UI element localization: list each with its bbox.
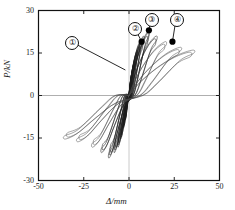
annotation-number-2: ② — [128, 22, 142, 36]
x-tick-label: 25 — [159, 182, 189, 191]
annotation-dot — [169, 39, 175, 45]
y-tick-label: 15 — [8, 48, 34, 57]
y-axis-label: P/kN — [2, 60, 12, 78]
x-tick-label: 50 — [205, 182, 235, 191]
y-tick-label: -30 — [8, 176, 34, 185]
plot-canvas — [0, 0, 235, 210]
y-tick-label: 30 — [8, 6, 34, 15]
y-tick-label: -15 — [8, 133, 34, 142]
x-tick-label: -25 — [69, 182, 99, 191]
annotation-number-3: ③ — [145, 13, 159, 27]
annotation-number-4: ④ — [170, 13, 184, 27]
y-tick-label: 0 — [8, 91, 34, 100]
annotation-number-1: ① — [65, 36, 79, 50]
annotation-dot — [146, 27, 152, 33]
x-tick-label: 0 — [114, 182, 144, 191]
x-axis-label: Δ/mm — [106, 196, 127, 206]
annotation-dot — [139, 39, 145, 45]
hysteresis-chart: P/kN Δ/mm -50-2502550-30-1501530 ①②③④ — [0, 0, 235, 210]
